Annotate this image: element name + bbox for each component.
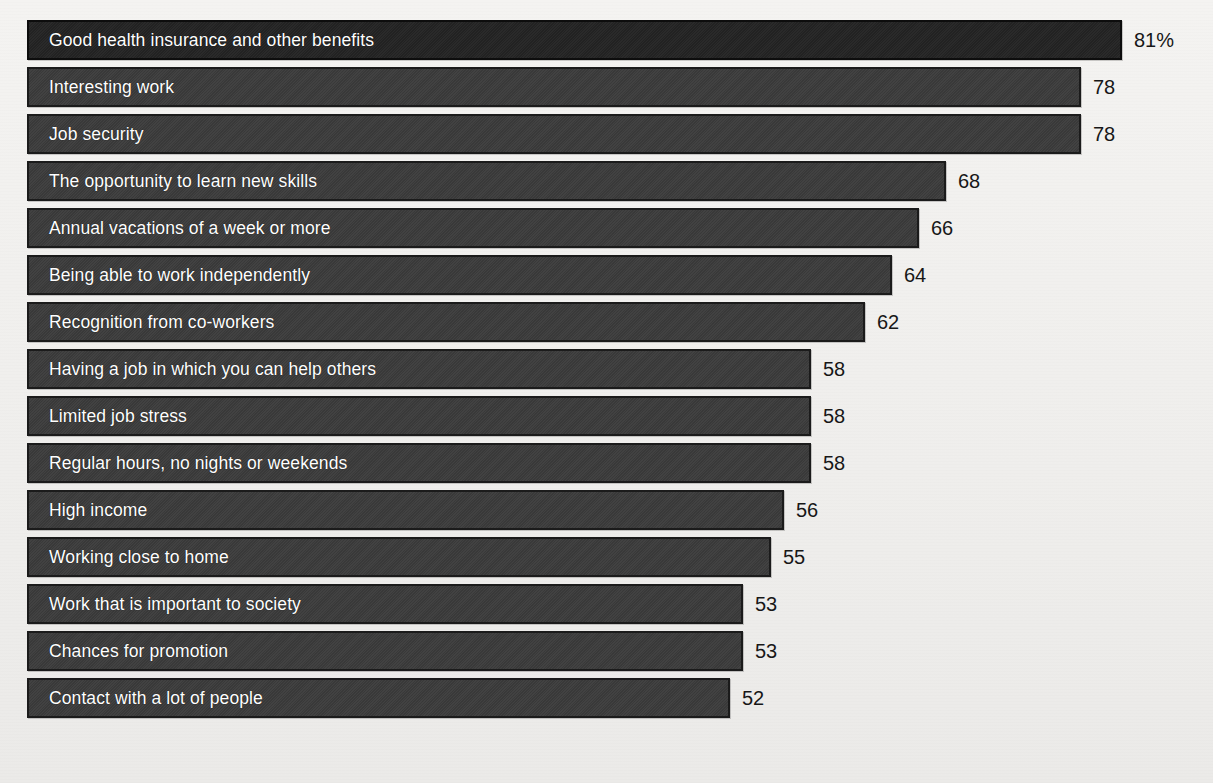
bar-category-label: Having a job in which you can help other… — [49, 351, 376, 387]
bar-category-label: Work that is important to society — [49, 586, 301, 622]
bar-category-label: Annual vacations of a week or more — [49, 210, 331, 246]
bar-category-label: Chances for promotion — [49, 633, 228, 669]
bar-category-label: Good health insurance and other benefits — [49, 22, 374, 58]
bar-category-label: Job security — [49, 116, 144, 152]
bar: High income — [27, 490, 784, 530]
bar-value-label: 53 — [755, 631, 777, 671]
bar-value-label: 62 — [877, 302, 899, 342]
bar: Working close to home — [27, 537, 771, 577]
bar-value-label: 64 — [904, 255, 926, 295]
bar: Chances for promotion — [27, 631, 743, 671]
bar-value-label: 58 — [823, 443, 845, 483]
bar-value-label: 78 — [1093, 67, 1115, 107]
bar-value-label: 52 — [742, 678, 764, 718]
bar-value-label: 68 — [958, 161, 980, 201]
bar: Recognition from co-workers — [27, 302, 865, 342]
bar-category-label: Regular hours, no nights or weekends — [49, 445, 347, 481]
bar-category-label: Working close to home — [49, 539, 229, 575]
bar: Being able to work independently — [27, 255, 892, 295]
bar: Contact with a lot of people — [27, 678, 730, 718]
bar: Work that is important to society — [27, 584, 743, 624]
bar-category-label: Recognition from co-workers — [49, 304, 274, 340]
bar-category-label: The opportunity to learn new skills — [49, 163, 317, 199]
bar-value-label: 78 — [1093, 114, 1115, 154]
bar: Limited job stress — [27, 396, 811, 436]
bar: Interesting work — [27, 67, 1081, 107]
bar-category-label: High income — [49, 492, 147, 528]
bar-value-label: 66 — [931, 208, 953, 248]
bar-value-label: 58 — [823, 396, 845, 436]
bar: The opportunity to learn new skills — [27, 161, 946, 201]
bar-value-label: 56 — [796, 490, 818, 530]
bar-value-label: 58 — [823, 349, 845, 389]
bar: Good health insurance and other benefits — [27, 20, 1122, 60]
bar-value-label: 81% — [1134, 20, 1174, 60]
horizontal-bar-chart: Good health insurance and other benefits… — [0, 0, 1213, 783]
bar-category-label: Interesting work — [49, 69, 174, 105]
bar-value-label: 55 — [783, 537, 805, 577]
chart-plot-area: Good health insurance and other benefits… — [0, 0, 1213, 783]
bar: Annual vacations of a week or more — [27, 208, 919, 248]
bar: Having a job in which you can help other… — [27, 349, 811, 389]
bar-value-label: 53 — [755, 584, 777, 624]
bar-category-label: Limited job stress — [49, 398, 187, 434]
bar: Regular hours, no nights or weekends — [27, 443, 811, 483]
bar: Job security — [27, 114, 1081, 154]
bar-category-label: Contact with a lot of people — [49, 680, 263, 716]
bar-category-label: Being able to work independently — [49, 257, 310, 293]
